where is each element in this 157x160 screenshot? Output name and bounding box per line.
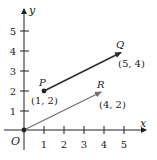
point-r-coord: (4, 2) bbox=[99, 99, 126, 110]
y-tick-label: 3 bbox=[10, 66, 16, 77]
x-tick-label: 3 bbox=[81, 139, 87, 150]
point-p-label: P bbox=[38, 77, 46, 88]
origin-label: O bbox=[11, 135, 20, 148]
y-tick-label: 4 bbox=[10, 46, 16, 57]
x-tick-label: 1 bbox=[41, 139, 47, 150]
point-p-coord: (1, 2) bbox=[31, 95, 58, 106]
vector-diagram: 1 2 3 4 5 1 2 3 4 5 y x O P (1, 2) Q (5,… bbox=[0, 0, 157, 160]
point-r-label: R bbox=[96, 79, 105, 90]
point-q-label: Q bbox=[116, 39, 124, 50]
point-q-coord: (5, 4) bbox=[118, 58, 145, 69]
x-axis-label: x bbox=[140, 117, 147, 130]
point-p-dot bbox=[42, 89, 47, 94]
y-tick-label: 1 bbox=[10, 106, 16, 117]
y-axis-label: y bbox=[28, 4, 36, 17]
x-tick-label: 4 bbox=[101, 139, 107, 150]
x-tick-label: 5 bbox=[121, 139, 127, 150]
vector-pq bbox=[44, 53, 121, 92]
y-tick-label: 2 bbox=[10, 86, 16, 97]
y-tick-label: 5 bbox=[10, 26, 16, 37]
x-tick-label: 2 bbox=[61, 139, 67, 150]
origin-dot bbox=[22, 128, 27, 133]
